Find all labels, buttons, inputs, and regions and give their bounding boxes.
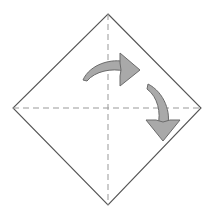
- diagram-background: [0, 0, 209, 214]
- origami-diagram-canvas: [0, 0, 209, 214]
- origami-fold-diagram: [0, 0, 209, 214]
